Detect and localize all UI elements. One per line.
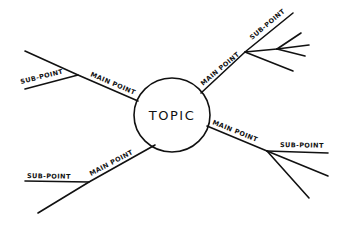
main-point-label-lower-left: MAIN POINT: [88, 148, 134, 178]
central-topic: TOPIC: [134, 78, 210, 152]
branch-lower-left: MAIN POINT SUB-POINT: [25, 145, 155, 213]
sub-fan-upper-right-4: [277, 49, 305, 56]
sub-line-right-1: [267, 151, 328, 153]
main-point-label-upper-right: MAIN POINT: [199, 50, 241, 87]
branch-right: MAIN POINT SUB-POINT: [207, 118, 328, 198]
sub-line-right-2: [267, 151, 328, 176]
mind-map-canvas: TOPIC MAIN POINT SUB-POINT MAIN POINT SU…: [0, 0, 345, 225]
sub-point-label-upper-left: SUB-POINT: [20, 68, 65, 86]
sub-fan-upper-right-5: [245, 52, 293, 71]
branch-upper-right: MAIN POINT SUB-POINT: [199, 7, 309, 93]
sub-line-right-3: [267, 151, 309, 198]
sub-point-label-lower-left: SUB-POINT: [27, 172, 71, 181]
sub-point-label-right: SUB-POINT: [280, 141, 324, 150]
sub-line-lower-left: [25, 181, 89, 182]
branch-upper-left: MAIN POINT SUB-POINT: [20, 51, 138, 101]
sub-fan-upper-right-1: [245, 49, 277, 52]
topic-label: TOPIC: [148, 108, 195, 123]
sub-point-label-upper-right: SUB-POINT: [248, 7, 287, 41]
